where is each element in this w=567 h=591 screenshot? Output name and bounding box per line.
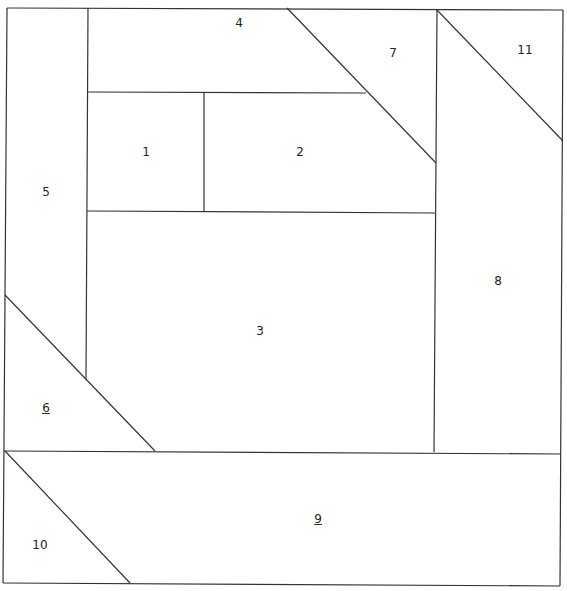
seam-4-bottom (88, 92, 366, 93)
piece-label-2: 2 (296, 146, 304, 158)
seam-lines (3, 8, 563, 586)
seam-11-diagonal (437, 10, 563, 141)
piece-label-5: 5 (42, 186, 50, 198)
piece-label-9: 9 (314, 513, 322, 525)
piece-label-3: 3 (256, 325, 264, 337)
piece-label-10: 10 (32, 539, 47, 551)
outer-right (560, 10, 563, 586)
piece-label-8: 8 (494, 275, 502, 287)
seam-9-top (4, 451, 561, 454)
seam-8-left (434, 9, 437, 452)
outer-top (7, 8, 563, 10)
seam-10-diagonal (5, 451, 130, 583)
seam-6-diagonal (5, 295, 155, 451)
seam-7-diagonal (287, 8, 436, 163)
piece-label-1: 1 (142, 146, 150, 158)
seam-5-right (86, 8, 88, 379)
quilt-block-diagram (0, 0, 567, 591)
piece-label-11: 11 (517, 44, 532, 56)
seam-12-bottom (87, 211, 436, 213)
piece-label-4: 4 (235, 17, 243, 29)
piece-label-6: 6 (42, 402, 50, 414)
piece-label-7: 7 (389, 47, 397, 59)
outer-bottom (3, 583, 560, 586)
